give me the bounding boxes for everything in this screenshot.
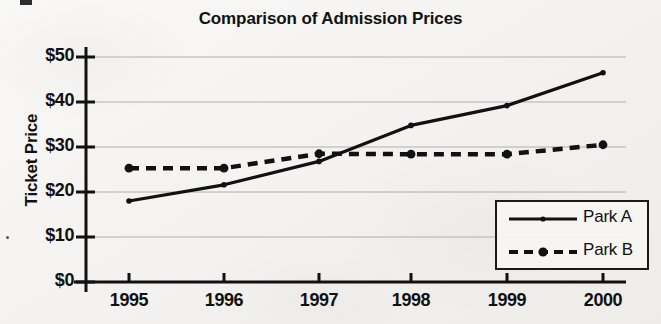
data-point — [600, 70, 606, 76]
data-point — [407, 150, 416, 159]
x-tick-label: 1995 — [94, 290, 164, 311]
legend-label-park-b: Park B — [583, 240, 633, 260]
y-tick-label: $0 — [16, 270, 74, 291]
y-tick-label: $30 — [16, 135, 74, 156]
data-point — [315, 149, 324, 158]
x-tick-label: 2000 — [568, 290, 638, 311]
data-point — [316, 159, 322, 165]
legend: Park A Park B — [495, 200, 649, 270]
y-tick-label: $40 — [16, 90, 74, 111]
data-point — [125, 164, 134, 173]
data-point — [504, 103, 510, 109]
x-tick-label: 1999 — [472, 290, 542, 311]
y-tick-label: $50 — [16, 45, 74, 66]
data-point — [599, 140, 608, 149]
data-point — [408, 123, 414, 129]
x-tick-label: 1996 — [189, 290, 259, 311]
x-tick-label: 1997 — [284, 290, 354, 311]
data-point — [220, 164, 229, 173]
data-point — [126, 198, 132, 204]
x-tick-label: 1998 — [376, 290, 446, 311]
y-tick-label: $10 — [16, 225, 74, 246]
legend-swatch-park-a — [507, 202, 579, 235]
legend-label-park-a: Park A — [583, 207, 632, 227]
legend-entry-park-b: Park B — [497, 235, 647, 268]
legend-entry-park-a: Park A — [497, 202, 647, 235]
plot-area — [0, 0, 661, 324]
data-point — [503, 150, 512, 159]
series-line-park-a — [129, 73, 603, 201]
data-series-layer — [125, 70, 608, 204]
series-line-park-b — [129, 145, 603, 168]
legend-swatch-park-b — [507, 235, 579, 268]
data-point — [221, 182, 227, 188]
chart-screenshot: Comparison of Admission Prices Ticket Pr… — [0, 0, 661, 324]
y-tick-label: $20 — [16, 180, 74, 201]
